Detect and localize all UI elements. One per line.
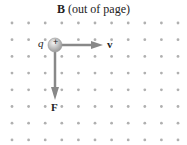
velocity-arrow <box>60 41 103 49</box>
field-dots <box>11 22 180 142</box>
charge-label: q <box>38 37 44 49</box>
force-label: F <box>51 101 58 113</box>
charge-sign: + <box>53 37 58 47</box>
diagram <box>0 0 187 145</box>
velocity-label: v <box>107 38 113 50</box>
force-arrow <box>51 52 59 100</box>
